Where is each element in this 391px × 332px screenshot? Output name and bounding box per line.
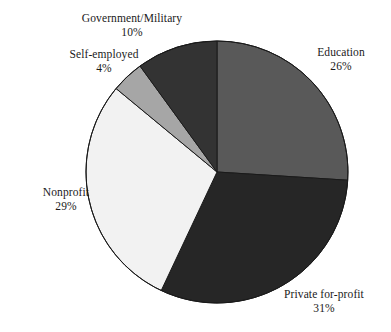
slice-label-nonprofit: Nonprofit 29%: [18, 186, 114, 213]
slice-label-government-military: Government/Military 10%: [62, 12, 202, 39]
slice-label-education-name: Education: [296, 46, 386, 60]
slice-label-private-for-profit: Private for-profit 31%: [262, 288, 386, 315]
slice-label-government-military-name: Government/Military: [62, 12, 202, 26]
slice-label-private-for-profit-name: Private for-profit: [262, 288, 386, 302]
slice-label-self-employed-value: 4%: [44, 62, 164, 76]
slice-label-education-value: 26%: [296, 60, 386, 74]
slice-label-self-employed-name: Self-employed: [44, 48, 164, 62]
slice-label-nonprofit-name: Nonprofit: [18, 186, 114, 200]
slice-label-government-military-value: 10%: [62, 26, 202, 40]
pie-slice-group: [86, 41, 348, 303]
slice-label-private-for-profit-value: 31%: [262, 302, 386, 316]
slice-label-self-employed: Self-employed 4%: [44, 48, 164, 75]
pie-chart-figure: Government/Military 10% Self-employed 4%…: [0, 0, 391, 332]
slice-label-nonprofit-value: 29%: [18, 200, 114, 214]
slice-label-education: Education 26%: [296, 46, 386, 73]
